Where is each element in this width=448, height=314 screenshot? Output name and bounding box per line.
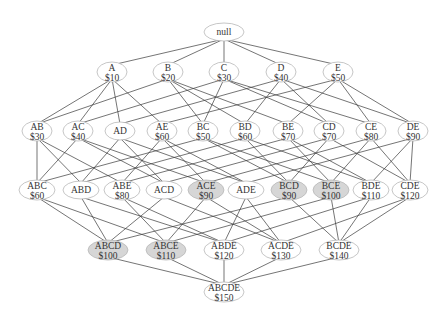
- edge-BE-BCE: [288, 138, 331, 183]
- node-label: E: [335, 63, 341, 73]
- edge-DE-CDE: [410, 138, 413, 183]
- edge-E-CE: [338, 79, 371, 124]
- node-label: BC: [197, 122, 210, 132]
- node-ABE: ABE$80: [104, 180, 140, 201]
- node-label: AE: [156, 122, 169, 132]
- node-label: ABDE: [211, 241, 237, 251]
- edge-null-D: [224, 39, 281, 65]
- edge-CDE-ACDE: [281, 197, 410, 243]
- edge-C-AC: [78, 79, 224, 124]
- node-label: AB: [30, 122, 43, 132]
- lattice-nodes: nullA$10B$20C$30D$40E$50AB$30AC$40ADAE$6…: [19, 23, 428, 303]
- edge-ADE-ABDE: [224, 197, 246, 243]
- edge-ABC-ABCD: [37, 197, 108, 243]
- edge-BCDE-ABCDE: [224, 257, 339, 285]
- node-cost: $70: [281, 132, 296, 142]
- edge-B-BE: [168, 79, 288, 124]
- edge-AB-ABE: [37, 138, 122, 183]
- node-label: CDE: [401, 181, 420, 191]
- node-cost: $60: [238, 132, 253, 142]
- edge-ABE-ABCE: [122, 197, 166, 243]
- edge-ABCD-ABCDE: [108, 257, 224, 285]
- node-label: CE: [365, 122, 377, 132]
- node-BCDE: BCDE$140: [319, 240, 359, 261]
- node-label: DE: [407, 122, 420, 132]
- node-cost: $30: [30, 132, 45, 142]
- node-label: ABCE: [153, 241, 179, 251]
- node-ACD: ACD: [146, 181, 182, 199]
- node-DE: DE$90: [398, 121, 428, 142]
- edge-AD-ADE: [120, 138, 246, 183]
- node-label: B: [165, 63, 171, 73]
- edge-DE-ADE: [246, 138, 413, 183]
- node-label: null: [217, 27, 232, 37]
- node-cost: $130: [272, 251, 291, 261]
- edge-ABE-ABDE: [122, 197, 224, 243]
- node-ABC: ABC$60: [19, 180, 55, 201]
- edge-AD-ABD: [81, 138, 120, 183]
- edge-null-B: [168, 39, 224, 65]
- node-cost: $110: [362, 191, 381, 201]
- edge-CD-ACD: [164, 138, 329, 183]
- edge-ACE-ACDE: [206, 197, 281, 243]
- node-label: BE: [282, 122, 294, 132]
- node-B: B$20: [153, 62, 183, 83]
- node-ADE: ADE: [228, 181, 264, 199]
- node-BCD: BCD$90: [271, 180, 307, 201]
- node-BDE: BDE$110: [353, 180, 389, 201]
- node-label: ABE: [113, 181, 132, 191]
- node-label: BCDE: [326, 241, 352, 251]
- node-D: D$40: [266, 62, 296, 83]
- node-label: A: [109, 63, 116, 73]
- node-cost: $80: [115, 191, 130, 201]
- node-cost: $50: [196, 132, 211, 142]
- node-cost: $40: [71, 132, 86, 142]
- edge-AE-ACE: [162, 138, 206, 183]
- node-cost: $140: [330, 251, 349, 261]
- node-C: C$30: [209, 62, 239, 83]
- edge-null-E: [224, 39, 338, 65]
- node-label: ACDE: [268, 241, 294, 251]
- edge-BD-ABD: [81, 138, 245, 183]
- node-ABCE: ABCE$110: [146, 240, 186, 261]
- edge-D-AD: [120, 79, 281, 124]
- node-label: AD: [113, 126, 127, 136]
- node-ACE: ACE$90: [188, 180, 224, 201]
- node-AE: AE$60: [147, 121, 177, 142]
- node-BCE: BCE$100: [313, 180, 349, 201]
- edge-CE-ACE: [206, 138, 371, 183]
- node-label: BCD: [279, 181, 299, 191]
- edge-AE-ABE: [122, 138, 162, 183]
- node-BD: BD$60: [230, 121, 260, 142]
- node-ABCD: ABCD$100: [88, 240, 128, 261]
- itemset-lattice-diagram: nullA$10B$20C$30D$40E$50AB$30AC$40ADAE$6…: [0, 0, 448, 314]
- node-cost: $10: [105, 73, 120, 83]
- node-AC: AC$40: [63, 121, 93, 142]
- edge-D-DE: [281, 79, 413, 124]
- node-E: E$50: [323, 62, 353, 83]
- edge-CD-CDE: [329, 138, 410, 183]
- edge-ACDE-ABCDE: [224, 257, 281, 285]
- node-label: BCE: [322, 181, 341, 191]
- edge-BDE-ABDE: [224, 197, 371, 243]
- node-label: ABC: [27, 181, 47, 191]
- node-BC: BC$50: [188, 121, 218, 142]
- node-cost: $110: [157, 251, 176, 261]
- node-ABCDE: ABCDE$150: [204, 282, 244, 303]
- node-cost: $120: [215, 251, 234, 261]
- edge-BE-ABE: [122, 138, 288, 183]
- edge-null-A: [112, 39, 224, 65]
- node-label: D: [278, 63, 285, 73]
- edge-A-AC: [78, 79, 112, 124]
- edge-BCE-ABCE: [166, 197, 331, 243]
- node-CDE: CDE$120: [392, 180, 428, 201]
- node-cost: $100: [99, 251, 118, 261]
- node-null: null: [204, 23, 244, 41]
- node-cost: $50: [331, 73, 346, 83]
- node-cost: $90: [199, 191, 214, 201]
- node-cost: $60: [155, 132, 170, 142]
- edge-B-AB: [37, 79, 168, 124]
- node-CE: CE$80: [356, 121, 386, 142]
- edge-A-AE: [112, 79, 162, 124]
- node-label: ABCD: [95, 241, 122, 251]
